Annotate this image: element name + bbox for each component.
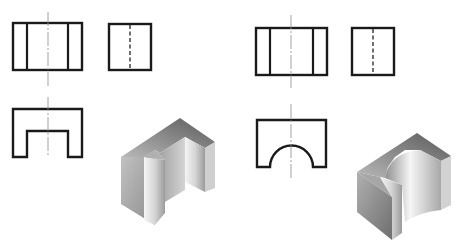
top-view-outline (257, 120, 326, 167)
top-view-outline (13, 109, 82, 157)
model-a (13, 12, 215, 225)
model-a-side-view (109, 24, 151, 70)
model-b-side-view (352, 28, 394, 75)
front-view-outline (256, 28, 327, 75)
iso-right-pillar-side (205, 142, 215, 192)
model-b-top-view (257, 104, 326, 178)
model-b-front-view (256, 15, 327, 88)
model-b (256, 15, 451, 240)
model-b-isometric (357, 133, 451, 240)
model-a-top-view (13, 97, 82, 157)
model-a-front-view (13, 12, 82, 86)
model-a-isometric (121, 118, 215, 225)
iso-right-pillar (441, 156, 451, 210)
front-view-outline (13, 23, 82, 70)
drawing-canvas (0, 0, 458, 249)
iso-left-pillar (144, 157, 165, 225)
